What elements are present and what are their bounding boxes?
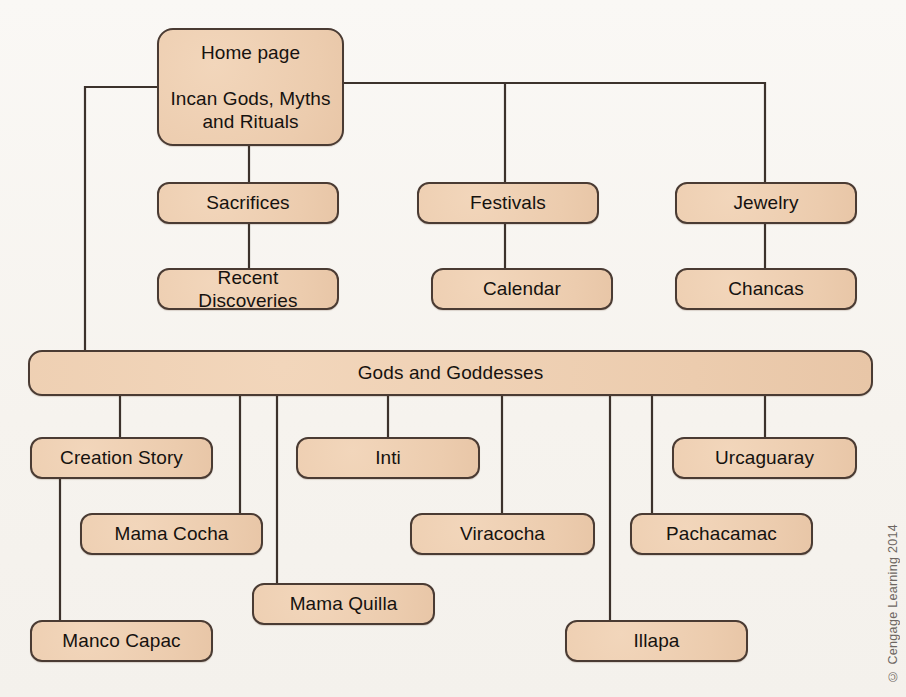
node-label-mamacocha: Mama Cocha bbox=[107, 522, 237, 545]
connector-layer bbox=[0, 0, 906, 697]
node-label-recent: Recent Discoveries bbox=[159, 266, 337, 312]
node-mamaquilla[interactable]: Mama Quilla bbox=[252, 583, 435, 625]
connector-home-to-festivals bbox=[344, 83, 505, 182]
node-label-calendar: Calendar bbox=[475, 277, 569, 300]
node-festivals[interactable]: Festivals bbox=[417, 182, 599, 224]
node-inti[interactable]: Inti bbox=[296, 437, 480, 479]
node-creation[interactable]: Creation Story bbox=[30, 437, 213, 479]
node-calendar[interactable]: Calendar bbox=[431, 268, 613, 310]
node-label-illapa: Illapa bbox=[625, 629, 687, 652]
node-recent[interactable]: Recent Discoveries bbox=[157, 268, 339, 310]
node-label-festivals: Festivals bbox=[462, 191, 554, 214]
node-label-mancocapac: Manco Capac bbox=[54, 629, 188, 652]
node-jewelry[interactable]: Jewelry bbox=[675, 182, 857, 224]
node-illapa[interactable]: Illapa bbox=[565, 620, 748, 662]
node-mancocapac[interactable]: Manco Capac bbox=[30, 620, 213, 662]
node-label-pachacamac: Pachacamac bbox=[658, 522, 785, 545]
node-label-home: Home page Incan Gods, Myths and Rituals bbox=[162, 41, 338, 134]
node-home[interactable]: Home page Incan Gods, Myths and Rituals bbox=[157, 28, 344, 146]
connector-home-to-jewelry bbox=[505, 83, 765, 182]
node-label-urcaguaray: Urcaguaray bbox=[707, 446, 822, 469]
node-label-viracocha: Viracocha bbox=[452, 522, 553, 545]
node-label-sacrifices: Sacrifices bbox=[198, 191, 297, 214]
node-sacrifices[interactable]: Sacrifices bbox=[157, 182, 339, 224]
node-pachacamac[interactable]: Pachacamac bbox=[630, 513, 813, 555]
node-label-gods: Gods and Goddesses bbox=[350, 361, 552, 384]
node-label-inti: Inti bbox=[367, 446, 409, 469]
node-gods[interactable]: Gods and Goddesses bbox=[28, 350, 873, 396]
node-urcaguaray[interactable]: Urcaguaray bbox=[672, 437, 857, 479]
node-label-creation: Creation Story bbox=[52, 446, 191, 469]
node-label-jewelry: Jewelry bbox=[725, 191, 806, 214]
connector-home-to-gods bbox=[85, 87, 157, 350]
node-mamacocha[interactable]: Mama Cocha bbox=[80, 513, 263, 555]
node-label-chancas: Chancas bbox=[720, 277, 812, 300]
node-chancas[interactable]: Chancas bbox=[675, 268, 857, 310]
copyright-notice: © Cengage Learning 2014 bbox=[886, 524, 900, 683]
node-label-mamaquilla: Mama Quilla bbox=[282, 592, 406, 615]
site-map-diagram: Home page Incan Gods, Myths and RitualsS… bbox=[0, 0, 906, 697]
node-viracocha[interactable]: Viracocha bbox=[410, 513, 595, 555]
